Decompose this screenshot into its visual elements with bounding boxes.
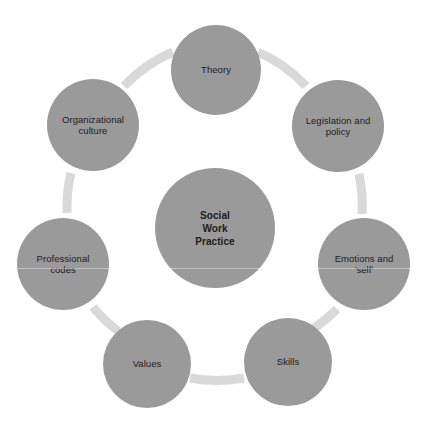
node-label-legislation-and-policy: Legislation and policy <box>302 115 375 138</box>
node-values[interactable]: Values <box>103 320 191 408</box>
node-legislation-and-policy[interactable]: Legislation and policy <box>292 80 384 172</box>
connector-theory-legislation <box>258 52 306 86</box>
node-label-theory: Theory <box>197 64 235 76</box>
node-emotions-and-self[interactable]: Emotions and 'self' <box>318 218 410 310</box>
node-professional-codes[interactable]: Professional codes <box>17 218 109 310</box>
connector-culture-theory <box>124 52 173 86</box>
node-skills[interactable]: Skills <box>244 318 332 406</box>
node-label-values: Values <box>129 358 166 370</box>
diagram-canvas: Social Work Practice Theory Legislation … <box>0 0 427 434</box>
node-label-skills: Skills <box>273 356 303 368</box>
node-label-organizational-culture: Organizational culture <box>58 114 128 137</box>
node-label-emotions-and-self: Emotions and 'self' <box>331 253 398 276</box>
center-node-label: Social Work Practice <box>191 209 238 248</box>
connector-codes-culture <box>67 173 71 213</box>
connector-values-codes <box>93 307 118 331</box>
connector-skills-values <box>190 378 244 380</box>
node-theory[interactable]: Theory <box>171 25 261 115</box>
center-node-social-work-practice[interactable]: Social Work Practice <box>155 168 275 288</box>
node-organizational-culture[interactable]: Organizational culture <box>47 79 139 171</box>
connector-legislation-emotions <box>359 174 362 214</box>
figure-caption <box>2 423 202 434</box>
node-label-professional-codes: Professional codes <box>33 253 94 276</box>
